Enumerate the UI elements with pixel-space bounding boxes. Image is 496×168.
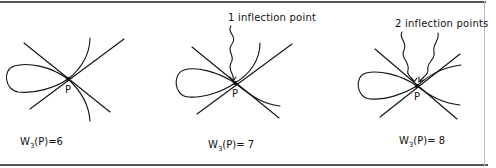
panel-2-drawing — [176, 26, 292, 118]
annotation-label: 1 inflection point — [228, 12, 316, 23]
point-label: P — [414, 91, 420, 102]
point-label: P — [232, 88, 238, 99]
lower-branch — [68, 79, 90, 121]
weight-suffix: (P)= 8 — [413, 135, 445, 146]
panel-3-drawing — [358, 32, 461, 119]
weight-prefix: W — [399, 135, 409, 146]
tangent-line-b — [30, 39, 124, 109]
inflection-points-figure: P P P 1 inflection point 2 inflection po… — [0, 0, 496, 168]
point-label: P — [65, 84, 71, 95]
wavy-arrow — [230, 26, 234, 80]
point-p — [415, 84, 418, 87]
weight-suffix: (P)=6 — [34, 136, 63, 147]
panel-1-drawing — [6, 38, 124, 121]
weight-prefix: W — [20, 136, 30, 147]
weight-label: W3(P)= 7 — [208, 139, 254, 153]
point-p — [66, 77, 69, 80]
weight-label: W3(P)=6 — [20, 136, 63, 150]
wavy-arrow-left — [401, 32, 414, 81]
tangent-line-a — [375, 49, 457, 119]
lower-branch — [417, 86, 460, 105]
point-p — [233, 81, 236, 84]
weight-prefix: W — [208, 139, 218, 150]
lower-branch — [235, 83, 280, 106]
annotation-label: 2 inflection points — [395, 18, 488, 29]
arrow-head-left — [411, 78, 417, 82]
weight-suffix: (P)= 7 — [222, 139, 254, 150]
tangent-line-b — [197, 44, 292, 114]
weight-label: W3(P)= 8 — [399, 135, 445, 149]
